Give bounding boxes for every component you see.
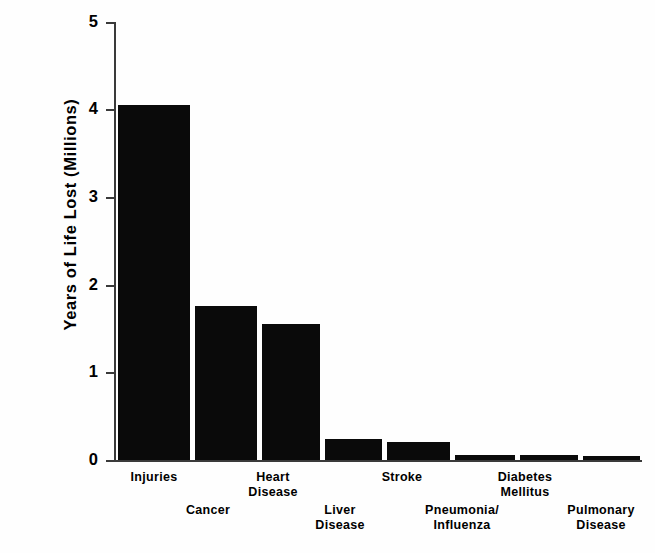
y-tick-mark-1 bbox=[106, 372, 115, 374]
plot-area bbox=[118, 22, 642, 460]
x-axis-line bbox=[114, 460, 642, 462]
y-tick-label-2: 2 bbox=[74, 275, 98, 294]
y-tick-4: 4 bbox=[72, 109, 98, 110]
y-tick-mark-2 bbox=[106, 285, 115, 287]
y-tick-5: 5 bbox=[72, 22, 98, 23]
bar-diabetes-mellitus bbox=[520, 455, 578, 460]
y-tick-label-3: 3 bbox=[74, 187, 98, 206]
y-tick-0: 0 bbox=[72, 460, 98, 461]
bar-cancer bbox=[195, 306, 257, 460]
x-label-liver-disease: Liver Disease bbox=[290, 503, 390, 532]
y-tick-mark-3 bbox=[106, 197, 115, 199]
y-axis-line bbox=[114, 22, 116, 462]
y-tick-mark-5 bbox=[106, 22, 115, 24]
x-label-heart-disease: Heart Disease bbox=[223, 470, 323, 499]
x-label-cancer: Cancer bbox=[158, 503, 258, 518]
y-tick-label-4: 4 bbox=[74, 99, 98, 118]
x-label-stroke: Stroke bbox=[352, 470, 452, 485]
bar-pulmonary-disease bbox=[583, 456, 640, 460]
y-tick-1: 1 bbox=[72, 372, 98, 373]
bar-injuries bbox=[118, 105, 190, 460]
bar-heart-disease bbox=[262, 324, 320, 460]
x-label-pulmonary-disease: Pulmonary Disease bbox=[546, 503, 655, 532]
bar-pneumonia-influenza bbox=[455, 455, 515, 460]
y-tick-3: 3 bbox=[72, 197, 98, 198]
y-tick-2: 2 bbox=[72, 285, 98, 286]
y-tick-label-1: 1 bbox=[74, 362, 98, 381]
y-tick-label-5: 5 bbox=[74, 12, 98, 31]
y-tick-mark-4 bbox=[106, 109, 115, 111]
bar-liver-disease bbox=[325, 439, 382, 460]
y-tick-mark-0 bbox=[106, 460, 115, 462]
x-label-pneumonia-influenza: Pneumonia/ Influenza bbox=[402, 503, 522, 532]
x-label-diabetes-mellitus: Diabetes Mellitus bbox=[470, 470, 580, 499]
bar-chart: Years of Life Lost (Millions) 5 4 3 2 1 … bbox=[0, 0, 655, 553]
bar-stroke bbox=[387, 442, 450, 460]
y-tick-label-0: 0 bbox=[74, 450, 98, 469]
x-label-injuries: Injuries bbox=[104, 470, 204, 485]
